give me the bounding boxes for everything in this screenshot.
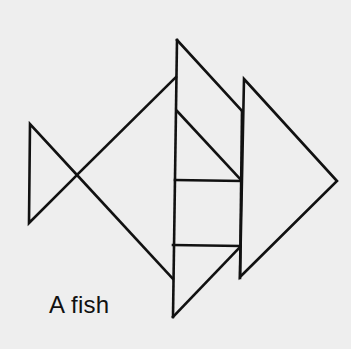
middle-triangle-edge — [177, 111, 241, 180]
fish-diagram: A fish — [0, 0, 351, 349]
top-fin-edge — [177, 40, 242, 111]
bottom-triangle-edge — [173, 247, 240, 317]
upper-horizontal — [175, 180, 241, 181]
tail-triangle — [29, 124, 77, 223]
head-triangle — [240, 79, 337, 277]
central-vertical — [173, 40, 177, 317]
body-bottom-edge — [77, 175, 173, 279]
body-top-edge — [77, 77, 176, 175]
lower-horizontal — [173, 245, 240, 246]
caption: A fish — [49, 293, 110, 317]
